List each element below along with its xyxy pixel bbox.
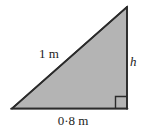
triangle-figure: 1 m h 0·8 m	[0, 0, 146, 132]
base-length-label: 0·8 m	[0, 114, 146, 127]
hypotenuse-length-label: 1 m	[39, 47, 59, 60]
height-symbol-label: h	[130, 55, 137, 68]
